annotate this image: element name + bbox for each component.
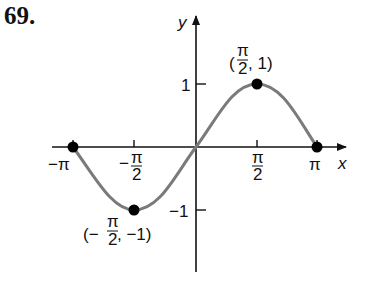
svg-text:−: − bbox=[119, 154, 129, 173]
x-axis-label: x bbox=[337, 154, 347, 173]
svg-text:, −1): , −1) bbox=[117, 225, 152, 244]
svg-text:2: 2 bbox=[238, 59, 247, 78]
trough-label: (− π 2 , −1) bbox=[83, 212, 152, 249]
x-tick-label-neg-pi: −π bbox=[48, 155, 70, 174]
svg-text:, 1): , 1) bbox=[248, 54, 273, 73]
svg-text:(−: (− bbox=[83, 225, 99, 244]
svg-text:2: 2 bbox=[132, 165, 141, 184]
x-tick-label-half-pi: π 2 bbox=[252, 148, 264, 184]
y-tick-label-1: 1 bbox=[181, 76, 190, 95]
point-pi bbox=[312, 142, 323, 153]
y-tick-label-neg-1: −1 bbox=[169, 202, 188, 221]
sine-graph: y x 1 −1 −π − π 2 π 2 π ( π 2 , 1) (− π … bbox=[0, 0, 373, 287]
x-tick-label-pi: π bbox=[309, 155, 321, 174]
x-tick-label-neg-half-pi: − π 2 bbox=[119, 148, 143, 184]
point-trough bbox=[129, 205, 140, 216]
y-axis-label: y bbox=[177, 13, 188, 32]
point-peak bbox=[252, 79, 263, 90]
svg-text:2: 2 bbox=[253, 165, 262, 184]
svg-text:(: ( bbox=[229, 54, 235, 73]
point-neg-pi bbox=[68, 142, 79, 153]
peak-label: ( π 2 , 1) bbox=[229, 41, 273, 78]
svg-text:π: π bbox=[237, 41, 249, 60]
